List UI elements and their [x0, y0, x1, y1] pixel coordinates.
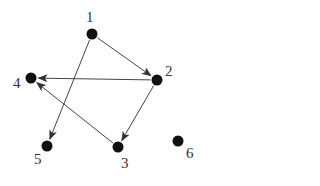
- node-label-2: 2: [165, 63, 173, 79]
- edge-2-to-4: [38, 78, 150, 80]
- edge-2-to-3: [122, 86, 154, 141]
- labels-layer: 123456: [13, 9, 194, 171]
- directed-graph: 123456: [0, 0, 320, 186]
- edge-1-to-2: [97, 38, 151, 76]
- node-label-6: 6: [186, 145, 194, 161]
- node-2: [152, 75, 163, 86]
- node-1: [87, 29, 98, 40]
- edge-1-to-5: [50, 40, 90, 139]
- edges-layer: [37, 38, 154, 143]
- node-5: [42, 141, 53, 152]
- node-label-3: 3: [121, 155, 129, 171]
- nodes-layer: [26, 29, 184, 153]
- node-label-1: 1: [86, 9, 94, 25]
- edge-3-to-4: [37, 83, 113, 143]
- node-label-5: 5: [34, 151, 42, 167]
- node-6: [173, 136, 184, 147]
- node-3: [113, 142, 124, 153]
- node-label-4: 4: [13, 75, 21, 91]
- node-4: [26, 73, 37, 84]
